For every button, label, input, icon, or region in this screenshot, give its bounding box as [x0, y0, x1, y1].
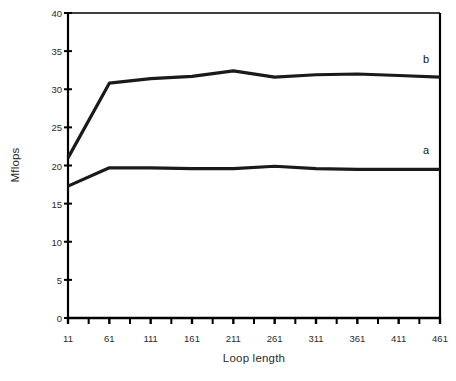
- x-tick-label: 461: [420, 333, 456, 344]
- x-tick-label: 361: [337, 333, 377, 344]
- y-tick-label: 5: [40, 274, 62, 285]
- x-axis-title: Loop length: [68, 352, 440, 364]
- y-tick-label: 10: [40, 236, 62, 247]
- chart-figure: Mflops 0510152025303540 1161111161211261…: [0, 0, 456, 381]
- y-tick-label: 30: [40, 84, 62, 95]
- y-axis-tick-labels: 0510152025303540: [34, 0, 62, 381]
- x-tick-label: 161: [172, 333, 212, 344]
- x-tick-label: 311: [296, 333, 336, 344]
- x-tick-label: 61: [89, 333, 129, 344]
- y-tick-label: 15: [40, 198, 62, 209]
- x-tick-label: 261: [255, 333, 295, 344]
- y-tick-label: 35: [40, 46, 62, 57]
- x-axis-tick-labels: 1161111161211261311361411461: [0, 333, 456, 349]
- series-label-b: b: [423, 53, 429, 65]
- y-tick-label: 40: [40, 8, 62, 19]
- series-line-b: [68, 71, 440, 158]
- data-series-layer: [68, 71, 440, 186]
- x-tick-label: 111: [131, 333, 171, 344]
- plot-area: [0, 0, 456, 381]
- series-label-a: a: [423, 144, 429, 156]
- y-tick-label: 0: [40, 313, 62, 324]
- series-line-a: [68, 166, 440, 186]
- y-tick-label: 25: [40, 122, 62, 133]
- axes-layer: [68, 13, 440, 318]
- y-tick-label: 20: [40, 160, 62, 171]
- x-tick-label: 211: [213, 333, 253, 344]
- x-tick-label: 411: [379, 333, 419, 344]
- x-tick-label: 11: [48, 333, 88, 344]
